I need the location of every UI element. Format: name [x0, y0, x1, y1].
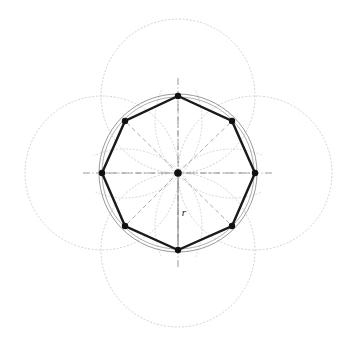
vertex-dot-upper-right: [229, 118, 235, 124]
vertex-dot-right: [252, 170, 258, 176]
vertex-dot-left: [99, 170, 105, 176]
vertex-dot-top: [175, 93, 181, 99]
vertex-dot-lower-left: [122, 223, 128, 229]
radius-to-lower-left: [125, 173, 178, 226]
radius-to-upper-left: [125, 121, 178, 173]
radius-to-lower-right: [178, 173, 232, 226]
vertex-dot-upper-left: [122, 118, 128, 124]
radius-label: r: [182, 206, 187, 218]
figure-canvas: r: [0, 0, 340, 346]
vertex-dot-lower-right: [229, 223, 235, 229]
octagon-construction-diagram: r: [0, 0, 340, 346]
vertex-dot-bottom: [175, 247, 181, 253]
center-point-dot: [174, 169, 182, 177]
radius-to-upper-right: [178, 121, 232, 173]
